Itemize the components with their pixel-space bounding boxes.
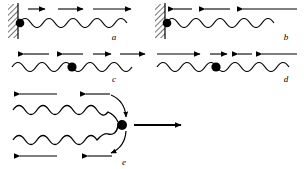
- canvas-background: [0, 0, 304, 169]
- bead-c: [67, 62, 76, 71]
- panel-label-d: d: [284, 74, 289, 84]
- bead-a: [16, 19, 25, 28]
- bead-e: [117, 120, 127, 130]
- bead-b: [163, 19, 172, 28]
- bead-d: [211, 62, 220, 71]
- panel-label-b: b: [284, 32, 289, 42]
- panel-label-c: c: [112, 74, 116, 84]
- panel-label-a: a: [112, 32, 117, 42]
- panel-label-e: e: [122, 157, 126, 167]
- figure-root: a b c: [0, 0, 304, 169]
- wave-diagram-svg: a b c: [0, 0, 304, 169]
